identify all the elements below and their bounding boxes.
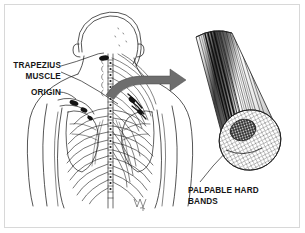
posterior-upper-back-anatomy: [27, 12, 192, 208]
label-origin: ORIGIN: [13, 88, 61, 99]
spine-vertebrae: [102, 54, 114, 208]
label-trapezius-muscle: TRAPEZIUS MUSCLE: [13, 61, 61, 82]
acromion-origin-region: [58, 98, 94, 114]
magnified-muscle-bundle-cylinder: [196, 28, 291, 180]
scapula-left: [66, 111, 98, 172]
label-palpable-hard-bands: PALPABLE HARD BANDS: [188, 186, 264, 207]
leader-origin: [59, 92, 76, 99]
figure-root: TRAPEZIUS MUSCLE ORIGIN PALPABLE HARD BA…: [0, 0, 305, 233]
illustrator-signature: [134, 199, 146, 211]
label-leader-lines: [59, 53, 228, 182]
